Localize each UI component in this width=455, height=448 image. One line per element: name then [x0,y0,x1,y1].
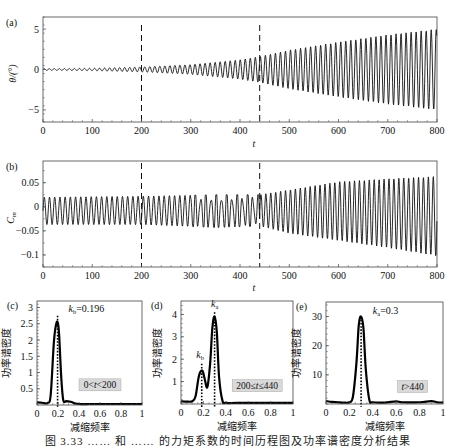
x-tick-label: 0 [324,407,329,418]
y-axis-label: 功率谱密度 [151,328,163,378]
peak-annotation: ka [211,298,218,310]
x-axis-label: t [253,138,256,149]
x-tick-label: 500 [282,125,297,136]
y-tick-label: −5 [28,104,39,115]
x-tick-label: 0.8 [264,407,277,418]
x-tick-label: 0.2 [197,407,210,418]
y-tick-label: 0 [34,64,39,75]
x-tick-label: 200 [134,125,149,136]
x-tick-label: 1 [140,408,145,419]
x-tick-label: 300 [183,125,198,136]
x-tick-label: 0.2 [343,407,356,418]
x-tick-label: 0 [41,125,46,136]
chart-panel-c-psd-0-200: 00.20.40.60.810.511.522.53(c)kb=0.1960<t… [0,300,145,433]
x-tick-label: 0.8 [115,408,128,419]
x-tick-label: 700 [380,270,395,281]
x-tick-label: 0.4 [367,407,380,418]
x-tick-label: 0 [41,270,46,281]
peak-annotation: kb [196,349,204,361]
panel-label: (e) [296,301,307,313]
peak-annotation: ka=0.3 [373,305,398,317]
y-tick-label: 0.05 [22,177,40,188]
x-tick-label: 200 [134,270,149,281]
y-tick-label: 0 [34,201,39,212]
x-tick-label: 0.4 [73,408,86,419]
y-tick-label: 0.5 [21,383,34,394]
x-tick-label: 600 [331,125,346,136]
x-tick-label: 0.6 [390,407,403,418]
x-tick-label: 100 [85,270,100,281]
x-tick-label: 800 [430,125,445,136]
theta-signal-line [43,30,437,109]
y-axis-label: θ/(°) [7,64,19,83]
x-tick-label: 300 [183,270,198,281]
chart-panel-e-psd-after-440: 00.20.40.60.81102030(e)ka=0.3t>440减缩频率功率… [290,301,446,432]
time-range-label: t>440 [401,382,423,392]
x-tick-label: 0.2 [52,408,65,419]
panel-label: (b) [6,161,18,173]
x-tick-label: 1 [291,407,296,418]
y-tick-label: −0.1 [21,249,39,260]
y-tick-label: −0.05 [16,225,39,236]
y-axis-label: 功率谱密度 [290,328,302,378]
x-axis-label: t [253,282,256,293]
y-tick-label: 1 [172,376,177,387]
x-tick-label: 400 [233,125,248,136]
panel-label: (c) [7,300,18,312]
x-axis-label: 减缩频率 [365,420,405,432]
y-axis-label: Cm [5,212,18,224]
panel-label: (a) [6,17,17,29]
cm-signal-line [43,177,437,256]
x-tick-label: 0 [179,407,184,418]
y-tick-label: 2 [28,335,33,346]
y-tick-label: 1 [28,367,33,378]
y-tick-label: 10 [312,369,322,380]
chart-panel-d-psd-200-440: 00.20.40.60.811234(d)kbka200≤t≤440减缩频率功率… [151,298,296,432]
x-tick-label: 0.6 [94,408,107,419]
y-tick-label: 3 [28,302,33,313]
panel-label: (d) [151,300,163,312]
chart-panel-a-theta-time-history: 0100200300400500600700800−505(a)tθ/(°) [6,17,445,149]
y-tick-label: 4 [172,309,177,320]
time-range-label: 200≤t≤440 [236,381,278,391]
x-tick-label: 400 [233,270,248,281]
figure-caption: 图 3.33 …… 和 …… 的力矩系数的时间历程图及功率谱密度分析结果 [0,432,455,446]
x-tick-label: 800 [430,270,445,281]
y-tick-label: 2 [172,354,177,365]
psd-curve [37,322,142,405]
x-tick-label: 500 [282,270,297,281]
x-tick-label: 0.6 [242,407,255,418]
y-tick-label: 3 [172,331,177,342]
x-tick-label: 700 [380,125,395,136]
y-tick-label: 30 [312,311,322,322]
y-axis-label: 功率谱密度 [0,328,12,378]
x-tick-label: 100 [85,125,100,136]
x-tick-label: 600 [331,270,346,281]
x-tick-label: 0.4 [220,407,233,418]
chart-panel-b-cm-time-history: 0100200300400500600700800−0.1−0.0500.05(… [5,161,445,293]
y-tick-label: 1.5 [21,351,34,362]
time-range-label: 0<t<200 [84,380,117,390]
x-axis-label: 减缩频率 [217,420,257,432]
y-tick-label: 20 [312,340,322,351]
x-tick-label: 0.8 [413,407,426,418]
plot-frame [43,17,437,122]
x-tick-label: 0 [35,408,40,419]
y-tick-label: 2.5 [21,318,34,329]
y-tick-label: 5 [34,24,39,35]
x-tick-label: 1 [441,407,446,418]
peak-annotation: kb=0.196 [69,303,105,315]
